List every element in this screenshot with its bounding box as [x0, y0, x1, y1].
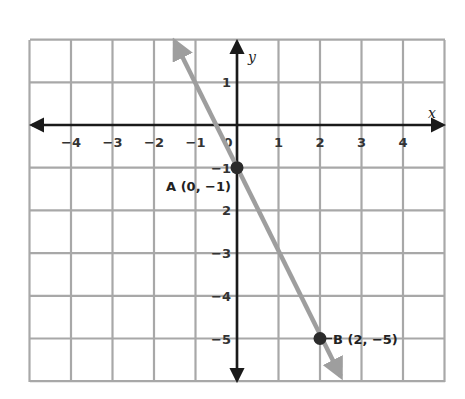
x-tick-label: −2: [144, 135, 164, 150]
x-tick-label: 2: [315, 135, 324, 150]
x-tick-label: 1: [274, 135, 283, 150]
y-tick-label: 1: [222, 75, 231, 90]
y-tick-label: −3: [211, 246, 231, 261]
point-b: [314, 332, 327, 345]
y-tick-label: −1: [211, 161, 231, 176]
x-tick-label: 3: [357, 135, 366, 150]
point-b-label: B (2, −5): [333, 332, 398, 347]
y-axis-label: y: [247, 49, 257, 65]
y-tick-label: −5: [211, 332, 231, 347]
y-tick-label: 2: [222, 203, 231, 218]
point-a: [231, 161, 244, 174]
x-tick-label: −4: [61, 135, 81, 150]
x-axis-label: x: [428, 105, 436, 121]
x-tick-label: −3: [103, 135, 123, 150]
coordinate-plane: xy −4−3−2−1123401−12−3−4−5 A (0, −1)B (2…: [0, 0, 465, 399]
point-a-label: A (0, −1): [166, 179, 231, 194]
y-tick-label: −4: [211, 289, 231, 304]
data-line: [175, 42, 341, 377]
x-tick-label: 4: [398, 135, 407, 150]
line-through-a-and-b: [175, 42, 341, 377]
x-tick-label: −1: [186, 135, 206, 150]
